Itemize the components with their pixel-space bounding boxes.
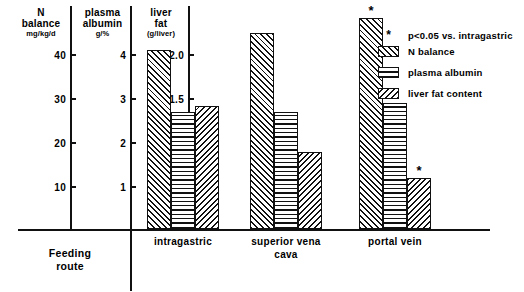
category-label-line1: portal vein (368, 236, 422, 247)
bar-superior-vena-cava-liver-fat (298, 152, 322, 229)
bar-intragastric-plasma-albumin (171, 112, 195, 229)
bar-portal-vein-liver-fat (407, 178, 431, 229)
axis-header-plasma-albumin: plasma albumin g/% (73, 8, 132, 38)
ticklabel-n-balance-40: 40 (30, 50, 66, 61)
bar-superior-vena-cava-plasma-albumin (274, 112, 298, 229)
tick-plasma-albumin-4 (131, 54, 136, 56)
tick-n-balance-10 (71, 186, 76, 188)
legend-row-n-balance: N balance (378, 46, 455, 57)
chart-figure: N balance mg/kg/d plasma albumin g/% liv… (0, 0, 524, 292)
x-axis-title-line1: Feeding (49, 247, 91, 259)
axis-header-line2: albumin (73, 19, 132, 30)
legend-label-plasma-albumin: plasma albumin (408, 67, 483, 78)
legend-significance-text: p<0.05 vs. intragastric (408, 30, 513, 41)
significance-star-portal-vein-n-balance: * (368, 4, 373, 17)
x-axis-title: Feeding route (10, 247, 130, 273)
legend-star-icon: * (378, 28, 399, 42)
legend-swatch-liver-fat (378, 88, 399, 99)
header-separator-1 (70, 6, 72, 44)
tick-n-balance-30 (71, 98, 76, 100)
tick-liver-fat-2-0 (189, 54, 194, 56)
y-axis-n-balance (70, 44, 72, 230)
y-axis-plasma-albumin (130, 44, 132, 230)
legend-row-plasma-albumin: plasma albumin (378, 67, 483, 78)
tick-liver-fat-1-5 (189, 98, 194, 100)
ticklabel-plasma-albumin-4: 4 (94, 50, 126, 61)
category-label-line1: superior vena (251, 236, 320, 247)
tick-n-balance-20 (71, 142, 76, 144)
tick-plasma-albumin-2 (131, 142, 136, 144)
ticklabel-n-balance-30: 30 (30, 94, 66, 105)
significance-star-portal-vein-liver-fat: * (416, 164, 421, 177)
ticklabel-n-balance-10: 10 (30, 182, 66, 193)
axis-header-unit: g/% (73, 30, 132, 38)
tick-plasma-albumin-3 (131, 98, 136, 100)
bar-intragastric-n-balance (147, 50, 171, 229)
ticklabel-plasma-albumin-1: 1 (94, 182, 126, 193)
axis-header-liver-fat: liver fat (g/liver) (133, 8, 189, 38)
x-axis-baseline (18, 229, 490, 231)
ticklabel-plasma-albumin-3: 3 (94, 94, 126, 105)
axis-header-unit: mg/kg/d (10, 30, 72, 38)
ticklabel-n-balance-20: 20 (30, 138, 66, 149)
legend-label-liver-fat: liver fat content (408, 88, 482, 99)
header-separator-3 (188, 6, 190, 44)
x-axis-title-line2: route (56, 260, 84, 272)
axis-header-unit: (g/liver) (133, 30, 189, 38)
bar-superior-vena-cava-n-balance (250, 33, 274, 229)
legend-label-n-balance: N balance (408, 46, 455, 57)
legend-row-liver-fat: liver fat content (378, 88, 482, 99)
category-label-line2: cava (274, 249, 297, 260)
tick-plasma-albumin-1 (131, 186, 136, 188)
category-label-portal-vein: portal vein (330, 236, 460, 249)
axis-header-line2: balance (10, 19, 72, 30)
legend-swatch-n-balance (378, 46, 399, 57)
legend-row-significance: * p<0.05 vs. intragastric (378, 28, 513, 42)
bar-portal-vein-plasma-albumin (383, 103, 407, 229)
header-separator-2 (130, 6, 132, 44)
ticklabel-plasma-albumin-2: 2 (94, 138, 126, 149)
bar-intragastric-liver-fat (195, 106, 219, 229)
category-label-line1: intragastric (154, 236, 212, 247)
tick-n-balance-40 (71, 54, 76, 56)
axis-header-n-balance: N balance mg/kg/d (10, 8, 72, 38)
legend-swatch-plasma-albumin (378, 67, 399, 78)
axis-header-line2: fat (133, 19, 189, 30)
